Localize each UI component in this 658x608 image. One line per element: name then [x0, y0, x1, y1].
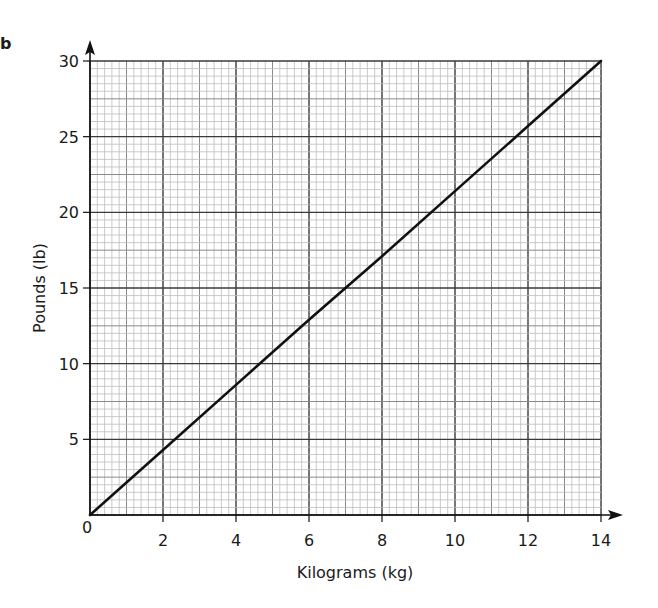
y-axis-title: Pounds (lb) — [30, 243, 49, 333]
x-tick-label: 0 — [82, 518, 92, 537]
x-tick-label: 10 — [445, 531, 465, 550]
conversion-chart: 0246810121451015202530 Kilograms (kg) Po… — [0, 0, 658, 608]
y-tick-label: 25 — [59, 128, 79, 147]
x-axis-title: Kilograms (kg) — [297, 563, 414, 582]
y-tick-label: 15 — [59, 279, 79, 298]
y-tick-label: 10 — [59, 355, 79, 374]
x-tick-label: 4 — [231, 531, 241, 550]
y-tick-label: 30 — [59, 52, 79, 71]
x-tick-label: 12 — [518, 531, 538, 550]
y-tick-label: 5 — [69, 430, 79, 449]
x-tick-label: 6 — [304, 531, 314, 550]
x-tick-label: 8 — [377, 531, 387, 550]
x-tick-label: 2 — [158, 531, 168, 550]
x-tick-label: 14 — [591, 531, 611, 550]
y-tick-label: 20 — [59, 203, 79, 222]
